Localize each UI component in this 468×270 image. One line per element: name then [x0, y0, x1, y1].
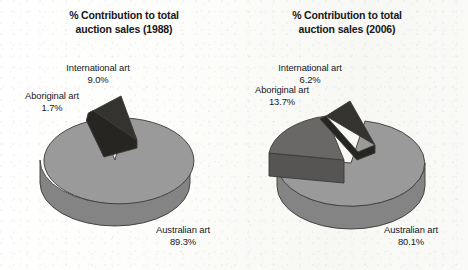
label-aboriginal-1988: Aboriginal art 1.7% — [0, 90, 106, 113]
label-international-2006: International art 6.2% — [244, 62, 376, 85]
slice-aboriginal-top-2006 — [269, 116, 344, 160]
label-international-1988: International art 9.0% — [32, 62, 164, 85]
label-australian-1988: Australian art 89.3% — [128, 224, 238, 247]
label-aboriginal-2006: Aboriginal art 13.7% — [222, 84, 342, 107]
chart-panel-2006: % Contribution to total auction sales (2… — [234, 0, 468, 270]
chart-panel-1988: % Contribution to total auction sales (1… — [0, 0, 234, 270]
label-australian-2006: Australian art 80.1% — [356, 224, 466, 247]
